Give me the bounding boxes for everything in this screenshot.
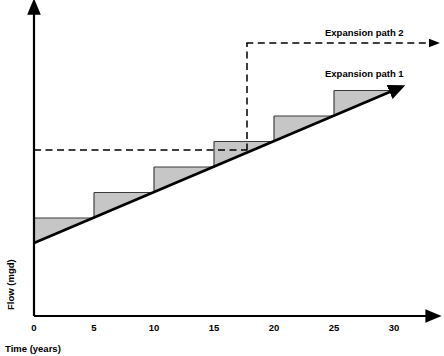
x-tick-label: 0 xyxy=(31,322,36,333)
expansion-path-chart: 0 5 10 15 20 25 30 Time (years) Flow (mg… xyxy=(0,0,444,356)
x-tick-label: 25 xyxy=(329,322,340,333)
demand-trend-line xyxy=(34,91,392,243)
x-axis-title: Time (years) xyxy=(5,343,61,354)
x-tick-label: 15 xyxy=(209,322,220,333)
chart-canvas: 0 5 10 15 20 25 30 Time (years) Flow (mg… xyxy=(0,0,444,356)
x-tick-label: 30 xyxy=(389,322,400,333)
x-tick-label: 20 xyxy=(269,322,280,333)
expansion-path-2-label: Expansion path 2 xyxy=(325,27,404,38)
x-tick-label: 5 xyxy=(91,322,97,333)
x-tick-label-group: 0 5 10 15 20 25 30 xyxy=(31,322,399,333)
expansion-path-1-label: Expansion path 1 xyxy=(325,68,404,79)
axis-group xyxy=(34,12,428,316)
y-axis-title: Flow (mgd) xyxy=(5,259,16,310)
x-tick-label: 10 xyxy=(149,322,160,333)
